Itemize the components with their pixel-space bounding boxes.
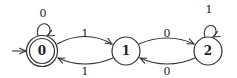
transition-label-0-1: 1 bbox=[82, 27, 89, 40]
transition-label-2-1: 0 bbox=[164, 65, 171, 78]
transition-label-0-0: 0 bbox=[40, 7, 47, 20]
state-1: 1 bbox=[112, 37, 140, 65]
state-0: 0 bbox=[27, 36, 58, 67]
state-label-2: 2 bbox=[204, 44, 212, 58]
transition-label-1-2: 0 bbox=[164, 27, 171, 40]
transition-label-2-2: 1 bbox=[206, 3, 213, 16]
state-2: 2 bbox=[194, 37, 222, 65]
state-label-1: 1 bbox=[122, 44, 130, 58]
automaton-diagram: 0 1 1 0 0 1 0 1 2 bbox=[0, 0, 237, 78]
transition-2-1 bbox=[140, 58, 195, 64]
state-label-0: 0 bbox=[38, 44, 46, 58]
transition-label-1-0: 1 bbox=[82, 65, 89, 78]
transition-0-0 bbox=[37, 24, 50, 36]
transition-2-2 bbox=[204, 25, 216, 37]
transition-1-0 bbox=[58, 58, 113, 64]
